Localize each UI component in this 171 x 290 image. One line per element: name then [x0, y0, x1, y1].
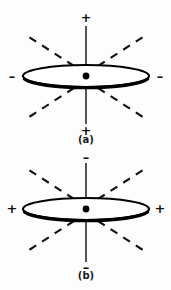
asymptote-lower-left-a: [26, 88, 74, 119]
center-dot-b: [83, 206, 90, 213]
asymptote-upper-right-b: [98, 170, 143, 199]
sign-left-a: –: [9, 69, 16, 84]
asymptote-upper-left-b: [29, 170, 74, 199]
diagram-canvas: + + – – (a) – –: [0, 0, 171, 290]
panel-b: – – + + (b): [7, 150, 166, 282]
center-dot-a: [83, 73, 90, 80]
asymptote-upper-right-a: [98, 37, 143, 66]
panel-a: + + – – (a): [9, 10, 164, 146]
asymptote-lower-right-b: [98, 221, 146, 252]
sign-right-a: –: [157, 69, 164, 84]
sign-top-a: +: [81, 10, 92, 25]
panel-caption-b: (b): [78, 270, 94, 281]
asymptote-lower-left-b: [26, 221, 74, 252]
asymptote-upper-left-a: [29, 37, 74, 66]
sign-right-b: +: [155, 201, 166, 216]
sign-top-b: –: [83, 150, 90, 165]
figure-container: + + – – (a) – –: [0, 0, 171, 290]
asymptote-lower-right-a: [98, 88, 146, 119]
panel-caption-a: (a): [78, 134, 94, 145]
sign-left-b: +: [7, 201, 18, 216]
